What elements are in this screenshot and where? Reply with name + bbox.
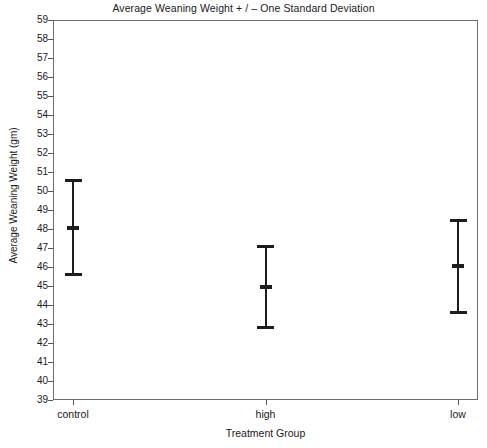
x-tick-label-control: control <box>28 409 118 420</box>
y-tick-label: 45 <box>26 281 48 291</box>
y-tick-label: 54 <box>26 110 48 120</box>
y-tick-label: 42 <box>26 338 48 348</box>
chart-title: Average Weaning Weight + / – One Standar… <box>0 2 487 14</box>
error-bar-cap-lower <box>257 326 274 329</box>
y-tick-label: 55 <box>26 91 48 101</box>
y-tick-label: 58 <box>26 34 48 44</box>
y-tick-label: 39 <box>26 395 48 405</box>
y-axis-title: Average Weaning Weight (gm) <box>8 106 19 286</box>
y-tick-label: 49 <box>26 205 48 215</box>
error-bar-chart: Average Weaning Weight + / – One Standar… <box>0 0 487 448</box>
x-tick-label-high: high <box>221 409 311 420</box>
x-axis-title: Treatment Group <box>53 427 478 439</box>
y-tick-label: 41 <box>26 357 48 367</box>
y-tick-label: 44 <box>26 300 48 310</box>
y-tick-label: 40 <box>26 376 48 386</box>
y-tick-label: 52 <box>26 148 48 158</box>
mean-marker <box>452 264 464 268</box>
y-tick-label: 46 <box>26 262 48 272</box>
y-tick-label: 51 <box>26 167 48 177</box>
mean-marker <box>260 285 272 289</box>
y-tick-label: 48 <box>26 224 48 234</box>
y-tick-mark <box>48 400 53 401</box>
y-tick-label: 57 <box>26 53 48 63</box>
y-tick-label: 43 <box>26 319 48 329</box>
error-bar-cap-lower <box>450 311 467 314</box>
y-tick-label: 56 <box>26 72 48 82</box>
x-tick-label-low: low <box>413 409 487 420</box>
x-tick-mark <box>458 400 459 405</box>
error-bar-cap-upper <box>257 245 274 248</box>
x-tick-mark <box>266 400 267 405</box>
error-bar-cap-upper <box>450 219 467 222</box>
y-tick-label: 47 <box>26 243 48 253</box>
y-tick-label: 50 <box>26 186 48 196</box>
plot-area <box>53 20 478 400</box>
error-bar-cap-lower <box>65 273 82 276</box>
error-bar-cap-upper <box>65 179 82 182</box>
x-tick-mark <box>73 400 74 405</box>
y-tick-label: 59 <box>26 15 48 25</box>
mean-marker <box>67 226 79 230</box>
y-tick-label: 53 <box>26 129 48 139</box>
